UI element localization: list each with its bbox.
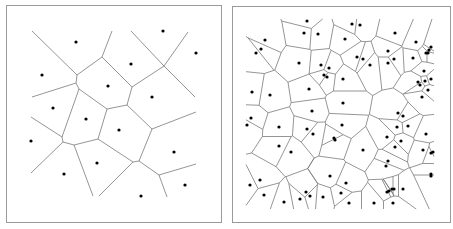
voronoi-edge xyxy=(275,53,281,71)
voronoi-edge xyxy=(397,120,402,123)
voronoi-edge xyxy=(368,180,369,183)
voronoi-edge xyxy=(63,142,74,145)
voronoi-edge xyxy=(427,76,430,85)
voronoi-edge xyxy=(414,140,429,143)
site-point xyxy=(358,23,361,26)
voronoi-edge xyxy=(336,184,352,192)
voronoi-edge xyxy=(311,19,322,28)
site-point xyxy=(396,111,399,114)
site-point xyxy=(248,183,251,186)
voronoi-edge xyxy=(292,116,293,136)
voronoi-edge xyxy=(294,116,318,123)
site-point xyxy=(321,195,324,198)
voronoi-edge xyxy=(352,191,361,192)
voronoi-edge xyxy=(264,70,274,73)
voronoi-edge xyxy=(344,138,352,159)
site-point xyxy=(414,40,417,43)
site-point xyxy=(106,84,109,87)
site-point xyxy=(305,127,308,130)
voronoi-edge xyxy=(403,48,418,51)
site-point xyxy=(392,57,395,60)
voronoi-edge xyxy=(356,72,358,74)
site-point xyxy=(139,194,142,197)
voronoi-edge xyxy=(369,96,372,115)
site-point xyxy=(277,125,280,128)
voronoi-edge xyxy=(343,135,351,139)
voronoi-edge xyxy=(422,46,427,51)
voronoi-edge xyxy=(362,182,368,191)
voronoi-edge xyxy=(282,21,286,45)
site-point xyxy=(426,88,429,91)
site-point xyxy=(339,191,342,194)
voronoi-edge xyxy=(393,88,403,94)
voronoi-edge xyxy=(388,47,402,57)
voronoi-edge xyxy=(311,49,329,51)
site-point xyxy=(302,31,305,34)
voronoi-edge xyxy=(286,45,310,49)
voronoi-edge xyxy=(319,85,326,95)
voronoi-edge xyxy=(330,188,334,207)
voronoi-edge xyxy=(319,145,322,156)
site-point xyxy=(344,181,347,184)
voronoi-edge xyxy=(258,183,279,189)
site-point xyxy=(262,193,265,196)
site-point xyxy=(424,51,427,54)
site-point xyxy=(429,174,432,177)
site-point xyxy=(424,132,427,135)
voronoi-edge xyxy=(246,105,259,106)
voronoi-edge xyxy=(152,112,196,129)
voronoi-edge xyxy=(132,66,164,87)
voronoi-edge xyxy=(399,170,405,174)
voronoi-edge xyxy=(159,164,196,175)
voronoi-edge xyxy=(329,25,333,49)
voronoi-edge xyxy=(418,51,422,62)
voronoi-edge xyxy=(366,126,378,149)
voronoi-edge xyxy=(139,129,152,161)
voronoi-edge xyxy=(316,185,318,209)
voronoi-edge xyxy=(418,46,423,50)
voronoi-edge xyxy=(98,109,107,139)
voronoi-edge xyxy=(325,95,326,98)
site-point xyxy=(411,56,414,59)
voronoi-edge xyxy=(403,48,404,73)
site-point xyxy=(289,150,292,153)
voronoi-edge xyxy=(252,153,277,167)
voronoi-edge xyxy=(99,162,133,196)
voronoi-edge xyxy=(79,89,107,109)
site-point xyxy=(350,22,353,25)
voronoi-drawing xyxy=(0,0,453,229)
voronoi-edge xyxy=(164,32,188,66)
voronoi-edge xyxy=(133,161,139,162)
voronoi-edge xyxy=(420,114,424,116)
site-point xyxy=(259,47,262,50)
voronoi-edge xyxy=(408,162,410,168)
voronoi-edge xyxy=(340,55,343,64)
site-point xyxy=(387,189,390,192)
site-point xyxy=(386,61,389,64)
site-point xyxy=(327,66,330,69)
voronoi-edge xyxy=(275,70,288,82)
site-point xyxy=(340,123,343,126)
site-point xyxy=(263,38,266,41)
voronoi-edge xyxy=(259,74,264,106)
voronoi-edge xyxy=(374,149,378,158)
voronoi-edge xyxy=(127,105,152,129)
site-point xyxy=(431,150,434,153)
voronoi-edge xyxy=(329,49,331,51)
voronoi-edge xyxy=(328,72,336,74)
site-point xyxy=(333,138,336,141)
voronoi-edge xyxy=(351,126,365,138)
site-point xyxy=(393,31,396,34)
site-point xyxy=(84,117,87,120)
voronoi-edge xyxy=(310,49,311,50)
voronoi-edge xyxy=(408,140,414,154)
voronoi-edge xyxy=(308,169,318,184)
voronoi-edge xyxy=(408,154,409,162)
voronoi-edge xyxy=(408,102,420,114)
site-point xyxy=(40,73,43,76)
voronoi-edge xyxy=(394,135,395,140)
voronoi-edge xyxy=(422,62,427,63)
voronoi-edge xyxy=(246,153,252,154)
voronoi-edge xyxy=(322,135,343,146)
site-point xyxy=(386,49,389,52)
